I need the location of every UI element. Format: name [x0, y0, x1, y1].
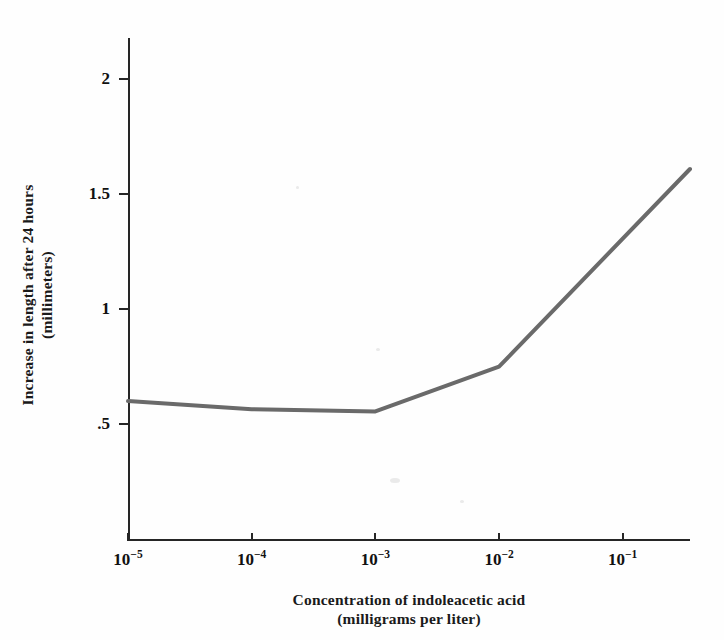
chart-figure: Increase in length after 24 hours (milli…	[0, 0, 724, 640]
scan-speckle	[460, 500, 464, 503]
y-tick-label: 2	[102, 69, 111, 89]
scan-speckle	[296, 186, 299, 189]
y-axis-title: Increase in length after 24 hours (milli…	[18, 95, 58, 495]
data-series-line	[128, 38, 690, 540]
y-tick-label: 1	[102, 299, 111, 319]
y-tick-label: 1.5	[89, 184, 110, 204]
scan-speckle	[390, 478, 400, 483]
x-tick-label: 10−5	[113, 550, 142, 570]
x-tick-label: 10−4	[237, 550, 266, 570]
series-polyline	[128, 169, 690, 411]
x-tick-label: 10−3	[361, 550, 390, 570]
x-axis-title: Concentration of indoleacetic acid (mill…	[128, 590, 690, 629]
x-tick-label: 10−2	[484, 550, 513, 570]
x-tick-label: 10−1	[608, 550, 637, 570]
plot-area: .511.52 10−510−410−310−210−1	[128, 38, 690, 540]
y-tick-label: .5	[97, 414, 110, 434]
scan-speckle	[376, 348, 380, 351]
